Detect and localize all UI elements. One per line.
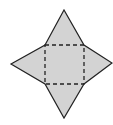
pyramid-net-diagram [0,0,113,125]
net-outline [11,10,112,118]
